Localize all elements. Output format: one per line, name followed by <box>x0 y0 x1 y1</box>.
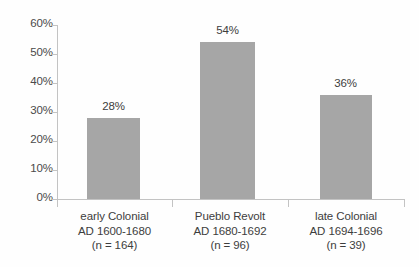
y-tick-label-20: 20% <box>30 133 53 145</box>
y-tick-mark-40 <box>52 83 58 84</box>
x-category-label-late-colonial: late Colonial AD 1694-1696 (n = 39) <box>288 209 404 253</box>
bar-value-late-colonial: 36% <box>309 77 382 89</box>
bar-pueblo-revolt <box>200 42 255 199</box>
category-period-1: AD 1680-1692 <box>172 224 288 239</box>
category-name-1: Pueblo Revolt <box>172 209 288 224</box>
bar-chart: 60% 50% 40% 30% 20% 10% 0% 28% 54% 36% e… <box>0 0 419 267</box>
x-category-label-early-colonial: early Colonial AD 1600-1680 (n = 164) <box>57 209 172 253</box>
bar-early-colonial <box>87 118 140 199</box>
bar-value-early-colonial: 28% <box>77 100 150 112</box>
category-period-0: AD 1600-1680 <box>57 224 172 239</box>
x-sep-mark-end <box>404 200 405 207</box>
x-sep-mark-start <box>57 200 58 207</box>
category-sample-2: (n = 39) <box>288 238 404 253</box>
y-tick-label-30: 30% <box>30 104 53 116</box>
y-tick-mark-60 <box>52 25 58 26</box>
y-tick-label-40: 40% <box>30 75 53 87</box>
bar-late-colonial <box>320 95 372 199</box>
y-tick-mark-50 <box>52 54 58 55</box>
x-axis-line <box>57 199 405 200</box>
x-sep-mark-1 <box>172 200 173 207</box>
x-category-label-pueblo-revolt: Pueblo Revolt AD 1680-1692 (n = 96) <box>172 209 288 253</box>
bar-value-pueblo-revolt: 54% <box>191 24 264 36</box>
y-tick-mark-20 <box>52 141 58 142</box>
category-sample-0: (n = 164) <box>57 238 172 253</box>
y-tick-label-10: 10% <box>30 162 53 174</box>
y-tick-label-50: 50% <box>30 46 53 58</box>
category-name-2: late Colonial <box>288 209 404 224</box>
y-tick-label-60: 60% <box>30 17 53 29</box>
category-sample-1: (n = 96) <box>172 238 288 253</box>
x-sep-mark-2 <box>288 200 289 207</box>
category-period-2: AD 1694-1696 <box>288 224 404 239</box>
y-tick-mark-30 <box>52 112 58 113</box>
y-tick-label-0: 0% <box>37 191 53 203</box>
y-tick-mark-10 <box>52 170 58 171</box>
category-name-0: early Colonial <box>57 209 172 224</box>
